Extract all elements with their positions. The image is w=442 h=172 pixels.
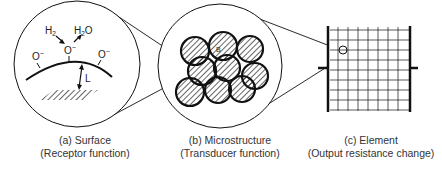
caption-microstructure: (b) Microstructure (Transducer function) bbox=[160, 134, 300, 160]
caption-microstructure-subtitle: (Transducer function) bbox=[160, 147, 300, 160]
depletion-length-label: L bbox=[85, 73, 91, 84]
caption-element: (c) Element (Output resistance change) bbox=[300, 134, 442, 160]
caption-microstructure-title: (b) Microstructure bbox=[160, 134, 300, 147]
panel-microstructure: B bbox=[158, 4, 282, 128]
caption-surface-title: (a) Surface bbox=[20, 134, 150, 147]
grains bbox=[176, 32, 268, 106]
caption-element-title: (c) Element bbox=[300, 134, 442, 147]
panel-element bbox=[318, 26, 418, 112]
panel-surface: H2 H2O O− O− O− L bbox=[14, 1, 140, 127]
barrier-label: B bbox=[216, 46, 221, 53]
caption-element-subtitle: (Output resistance change) bbox=[300, 147, 442, 160]
caption-surface: (a) Surface (Receptor function) bbox=[20, 134, 150, 160]
caption-surface-subtitle: (Receptor function) bbox=[20, 147, 150, 160]
